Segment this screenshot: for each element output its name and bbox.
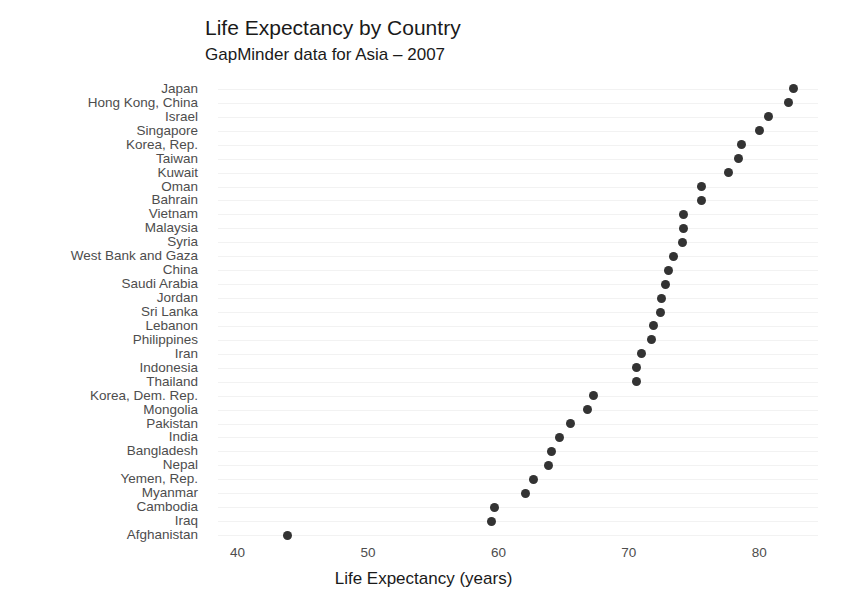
chart-canvas: Life Expectancy by Country GapMinder dat… <box>0 0 847 615</box>
gridline <box>218 382 818 383</box>
data-point <box>566 419 575 428</box>
plot-area <box>218 82 818 542</box>
y-axis-category-labels: JapanHong Kong, ChinaIsraelSingaporeKore… <box>0 82 208 542</box>
data-point <box>490 503 499 512</box>
y-axis-label: Malaysia <box>145 222 198 236</box>
data-point <box>529 475 538 484</box>
y-axis-label: Kuwait <box>157 166 198 180</box>
data-point <box>789 84 798 93</box>
y-axis-label: Mongolia <box>143 403 198 417</box>
data-point <box>547 447 556 456</box>
data-point <box>647 335 656 344</box>
y-axis-label: Israel <box>165 110 198 124</box>
gridline <box>218 298 818 299</box>
gridline <box>218 326 818 327</box>
data-point <box>664 266 673 275</box>
gridline <box>218 103 818 104</box>
y-axis-label: Taiwan <box>156 152 198 166</box>
gridline <box>218 145 818 146</box>
x-axis-tick-label: 40 <box>230 545 245 561</box>
gridline <box>218 424 818 425</box>
data-point <box>755 126 764 135</box>
gridline <box>218 214 818 215</box>
gridline <box>218 368 818 369</box>
gridline <box>218 312 818 313</box>
gridline <box>218 507 818 508</box>
data-point <box>669 252 678 261</box>
y-axis-label: Singapore <box>136 124 198 138</box>
data-point <box>724 168 733 177</box>
gridline <box>218 437 818 438</box>
data-point <box>649 321 658 330</box>
y-axis-label: Jordan <box>157 291 198 305</box>
x-axis-tick-label: 60 <box>491 545 506 561</box>
y-axis-label: Nepal <box>163 459 198 473</box>
data-point <box>521 489 530 498</box>
gridline <box>218 465 818 466</box>
data-point <box>657 294 666 303</box>
y-axis-label: Bangladesh <box>127 445 198 459</box>
data-point <box>697 196 706 205</box>
gridline <box>218 410 818 411</box>
gridline <box>218 228 818 229</box>
y-axis-label: Philippines <box>133 333 198 347</box>
y-axis-label: Iran <box>175 347 198 361</box>
y-axis-label: Vietnam <box>149 208 198 222</box>
gridline <box>218 354 818 355</box>
page-title: Life Expectancy by Country <box>205 14 825 41</box>
data-point <box>487 517 496 526</box>
y-axis-label: West Bank and Gaza <box>71 249 198 263</box>
data-point <box>589 391 598 400</box>
data-point <box>737 140 746 149</box>
y-axis-label: Korea, Dem. Rep. <box>90 389 198 403</box>
gridline <box>218 117 818 118</box>
gridline <box>218 340 818 341</box>
data-point <box>283 531 292 540</box>
y-axis-label: Myanmar <box>142 486 198 500</box>
data-point <box>656 308 665 317</box>
gridline <box>218 131 818 132</box>
gridline <box>218 521 818 522</box>
gridline <box>218 396 818 397</box>
data-point <box>632 363 641 372</box>
data-point <box>784 98 793 107</box>
y-axis-label: Bahrain <box>151 194 198 208</box>
data-point <box>637 349 646 358</box>
gridline <box>218 187 818 188</box>
x-axis-title: Life Expectancy (years) <box>0 568 847 590</box>
y-axis-label: Lebanon <box>145 319 198 333</box>
gridline <box>218 479 818 480</box>
y-axis-label: India <box>169 431 198 445</box>
data-point <box>697 182 706 191</box>
gridline <box>218 284 818 285</box>
y-axis-label: Syria <box>167 236 198 250</box>
data-point <box>734 154 743 163</box>
x-axis-tick-label: 50 <box>360 545 375 561</box>
x-axis-tick-label: 70 <box>621 545 636 561</box>
y-axis-label: Japan <box>161 82 198 96</box>
data-point <box>764 112 773 121</box>
y-axis-label: Sri Lanka <box>141 305 198 319</box>
data-point <box>544 461 553 470</box>
data-point <box>661 280 670 289</box>
y-axis-label: Hong Kong, China <box>88 96 198 110</box>
chart-subtitle: GapMinder data for Asia – 2007 <box>205 43 825 67</box>
gridline <box>218 270 818 271</box>
gridline <box>218 89 818 90</box>
y-axis-label: China <box>163 263 198 277</box>
gridline <box>218 493 818 494</box>
data-point <box>679 224 688 233</box>
y-axis-label: Iraq <box>175 514 198 528</box>
gridline <box>218 256 818 257</box>
y-axis-label: Cambodia <box>136 500 198 514</box>
data-point <box>632 377 641 386</box>
y-axis-label: Afghanistan <box>127 528 198 542</box>
data-point <box>678 238 687 247</box>
data-point <box>679 210 688 219</box>
x-axis-tick-label: 80 <box>752 545 767 561</box>
data-point <box>555 433 564 442</box>
gridline <box>218 535 818 536</box>
x-axis-tick-labels: 4050607080 <box>218 545 818 565</box>
y-axis-label: Indonesia <box>139 361 198 375</box>
y-axis-label: Pakistan <box>146 417 198 431</box>
